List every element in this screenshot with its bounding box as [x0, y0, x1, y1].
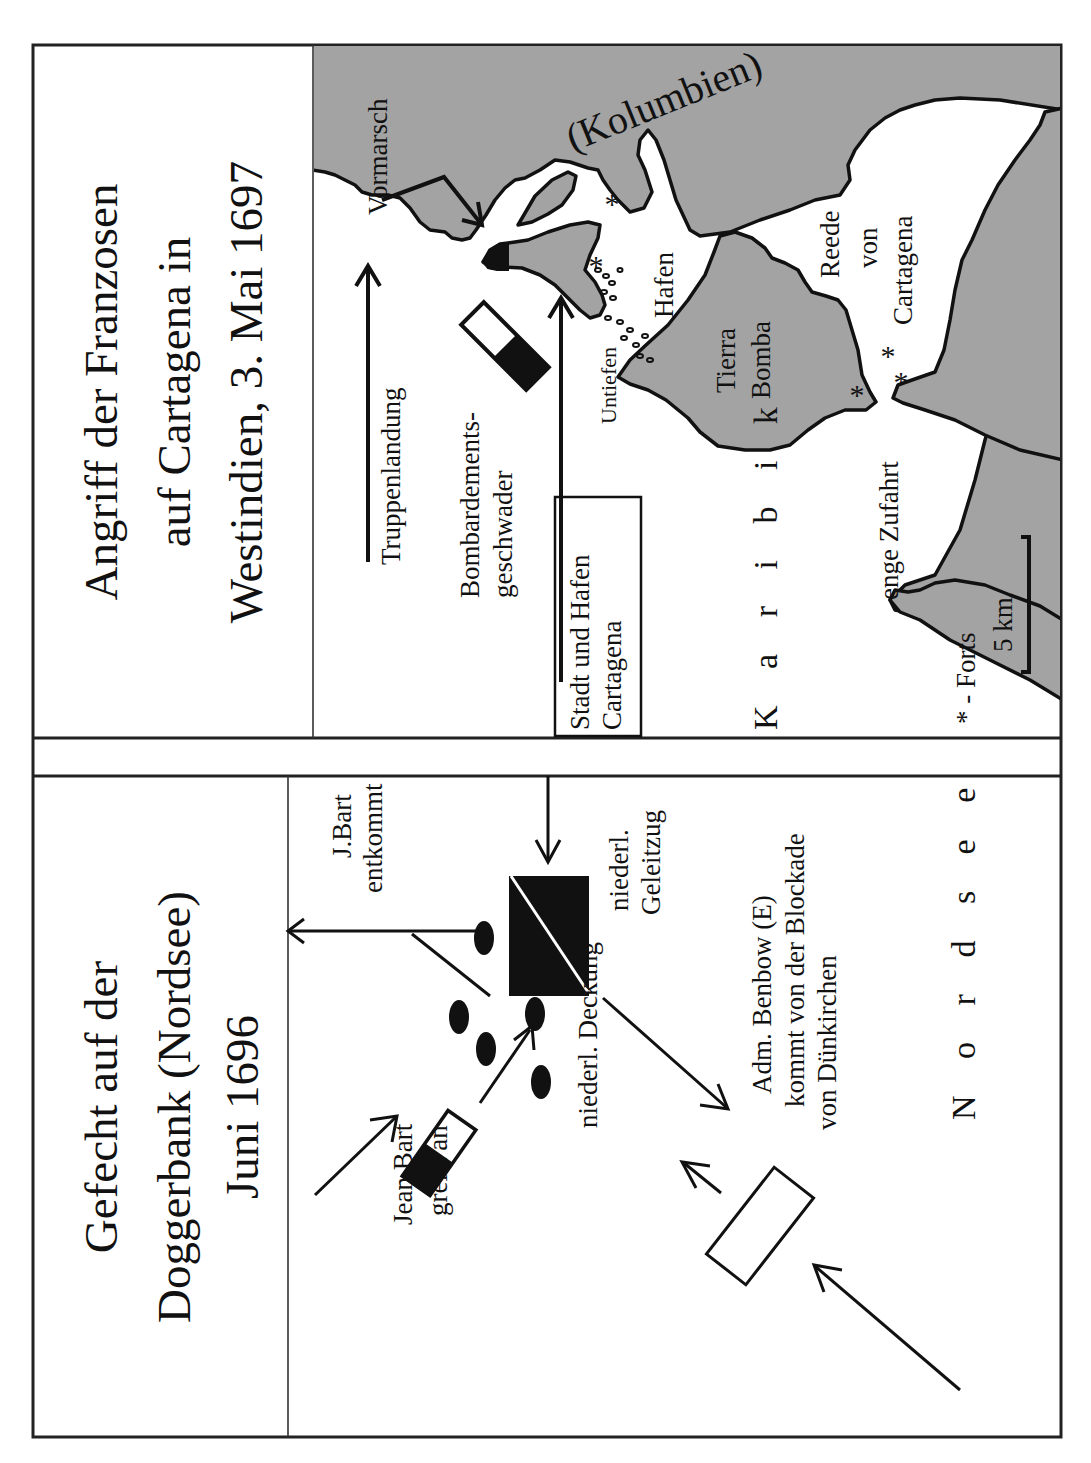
label-geschwader: geschwader	[488, 471, 518, 598]
cartagena-title-line-1: Angriff der Franzosen	[75, 184, 127, 601]
fort-marker: *	[589, 249, 604, 282]
label-jean-bart: Jean Bart	[388, 1123, 418, 1225]
label-niederl-deckung: niederl. Deckung	[573, 942, 603, 1128]
mainland-colombia-east	[893, 108, 1063, 460]
cartagena-title-line-2: auf Cartagena in	[148, 237, 200, 548]
doggerbank-title-line-1: Gefecht auf der	[75, 961, 127, 1254]
label-benbow-duenkirchen: von Dünkirchen	[812, 955, 842, 1130]
doggerbank-title: Gefecht auf der Doggerbank (Nordsee) Jun…	[75, 891, 268, 1323]
doggerbank-panel: Gefecht auf der Doggerbank (Nordsee) Jun…	[75, 774, 982, 1390]
fort-marker: *	[894, 365, 909, 398]
cartagena-title-line-3: Westindien, 3. Mai 1697	[220, 161, 272, 623]
scale-label: 5 km	[988, 597, 1018, 652]
convoy-escape-arrow	[603, 998, 726, 1107]
label-tierra: Tierra	[711, 328, 741, 393]
label-benbow: Adm. Benbow (E)	[747, 895, 777, 1094]
label-greift-an: greift an	[423, 1125, 453, 1216]
cartagena-title: Angriff der Franzosen auf Cartagena in W…	[75, 161, 272, 623]
doggerbank-map: Jean Bart greift an J.Bart entkommt nied…	[288, 774, 982, 1390]
inner-island	[518, 172, 576, 225]
label-enge-zufahrt: enge Zufahrt	[874, 461, 904, 600]
benbow-approach-arrow	[816, 1267, 960, 1390]
fort-marker: *	[850, 378, 865, 411]
label-j-bart: J.Bart	[327, 794, 357, 858]
cartagena-map: * * * * *	[312, 41, 1063, 736]
label-bombardements: Bombardements-	[455, 412, 485, 598]
label-benbow-blockade: kommt von der Blockade	[780, 833, 810, 1107]
label-untiefen: Untiefen	[596, 347, 621, 424]
label-niederl-escort: niederl.	[604, 829, 634, 911]
doggerbank-title-line-2: Doggerbank (Nordsee)	[148, 891, 200, 1323]
label-truppenlandung: Truppenlandung	[376, 387, 406, 565]
label-bomba: Bomba	[746, 321, 776, 399]
benbow-squadron-symbol	[706, 1167, 813, 1284]
label-geleitzug: Geleitzug	[636, 810, 666, 915]
map-sheet: Angriff der Franzosen auf Cartagena in W…	[0, 0, 1091, 1463]
label-karibik: K a r i b i k	[747, 393, 784, 730]
label-entkommt: entkommt	[358, 783, 388, 893]
bombardment-squadron-symbol	[461, 302, 549, 390]
label-vormarsch: Vormarsch	[363, 98, 393, 215]
legend-forts: * - Forts	[951, 632, 981, 724]
label-von: von	[853, 227, 883, 268]
label-hafen: Hafen	[649, 252, 679, 318]
label-reede-cartagena: Cartagena	[888, 216, 918, 325]
bart-approach-arrow	[315, 1118, 395, 1195]
label-cartagena-city: Cartagena	[597, 621, 627, 730]
fort-marker: *	[605, 187, 620, 220]
cartagena-panel: Angriff der Franzosen auf Cartagena in W…	[75, 41, 1063, 736]
label-reede: Reede	[815, 211, 845, 278]
label-stadt-und-hafen: Stadt und Hafen	[565, 554, 595, 730]
label-nordsee: N o r d s e e	[945, 774, 982, 1120]
doggerbank-title-line-3: Juni 1696	[216, 1015, 268, 1199]
bombarded-point-marker	[483, 244, 508, 270]
